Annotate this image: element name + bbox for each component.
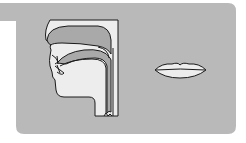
figure-canvas xyxy=(0,0,246,143)
phonetic-articulation-figure xyxy=(0,0,246,143)
panel-notch xyxy=(0,21,16,143)
